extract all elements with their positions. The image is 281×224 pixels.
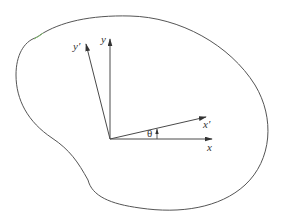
coordinate-rotation-diagram: y y′ x x′ θ bbox=[0, 0, 281, 224]
x-prime-axis bbox=[110, 117, 206, 139]
x-axis-label: x bbox=[206, 141, 212, 153]
y-prime-axis-label: y′ bbox=[72, 40, 81, 52]
y-prime-axis bbox=[86, 44, 110, 139]
y-axis-label: y bbox=[100, 33, 106, 45]
body-outline-highlight bbox=[34, 33, 43, 39]
theta-angle-label: θ bbox=[147, 127, 152, 139]
x-prime-axis-label: x′ bbox=[202, 118, 211, 130]
body-outline bbox=[16, 16, 268, 210]
